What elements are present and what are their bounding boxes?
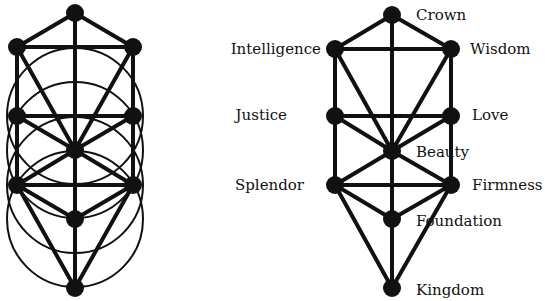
label-justice: Justice <box>234 106 288 124</box>
node-splendor <box>326 176 344 194</box>
node <box>8 107 26 125</box>
label-kingdom: Kingdom <box>416 281 484 299</box>
node <box>124 38 142 56</box>
label-firmness: Firmness <box>472 176 543 194</box>
node-beauty <box>383 142 401 160</box>
right-tree-figure: Crown Intelligence Wisdom Justice Love B… <box>231 6 543 299</box>
node-firmness <box>442 176 460 194</box>
left-tree-figure <box>7 4 143 297</box>
label-splendor: Splendor <box>235 176 305 194</box>
node <box>66 4 84 22</box>
node <box>66 210 84 228</box>
node-crown <box>383 6 401 24</box>
node <box>8 38 26 56</box>
node <box>124 176 142 194</box>
tree-of-life-diagram: Crown Intelligence Wisdom Justice Love B… <box>0 0 545 301</box>
node <box>8 176 26 194</box>
node <box>66 279 84 297</box>
node <box>66 141 84 159</box>
node-intelligence <box>326 40 344 58</box>
node-kingdom <box>383 279 401 297</box>
label-love: Love <box>472 106 508 124</box>
node-wisdom <box>442 40 460 58</box>
label-beauty: Beauty <box>416 143 470 161</box>
node <box>124 107 142 125</box>
label-intelligence: Intelligence <box>231 40 321 58</box>
label-wisdom: Wisdom <box>470 40 531 58</box>
node-foundation <box>383 210 401 228</box>
label-foundation: Foundation <box>416 212 502 230</box>
label-crown: Crown <box>416 6 467 24</box>
node-love <box>442 107 460 125</box>
node-justice <box>326 107 344 125</box>
